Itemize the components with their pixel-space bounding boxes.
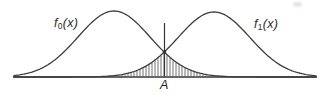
f1-label-argument: (x) bbox=[263, 17, 278, 31]
f1-curve-label: f1(x) bbox=[254, 18, 278, 31]
threshold-label: A bbox=[160, 79, 168, 92]
curve-intersection-dot bbox=[163, 50, 167, 54]
scan-artifact-smudge bbox=[293, 2, 302, 7]
distribution-overlap-diagram: f0(x) f1(x) A bbox=[0, 0, 330, 95]
f0-label-argument: (x) bbox=[63, 16, 78, 30]
f0-curve-label: f0(x) bbox=[54, 17, 78, 30]
